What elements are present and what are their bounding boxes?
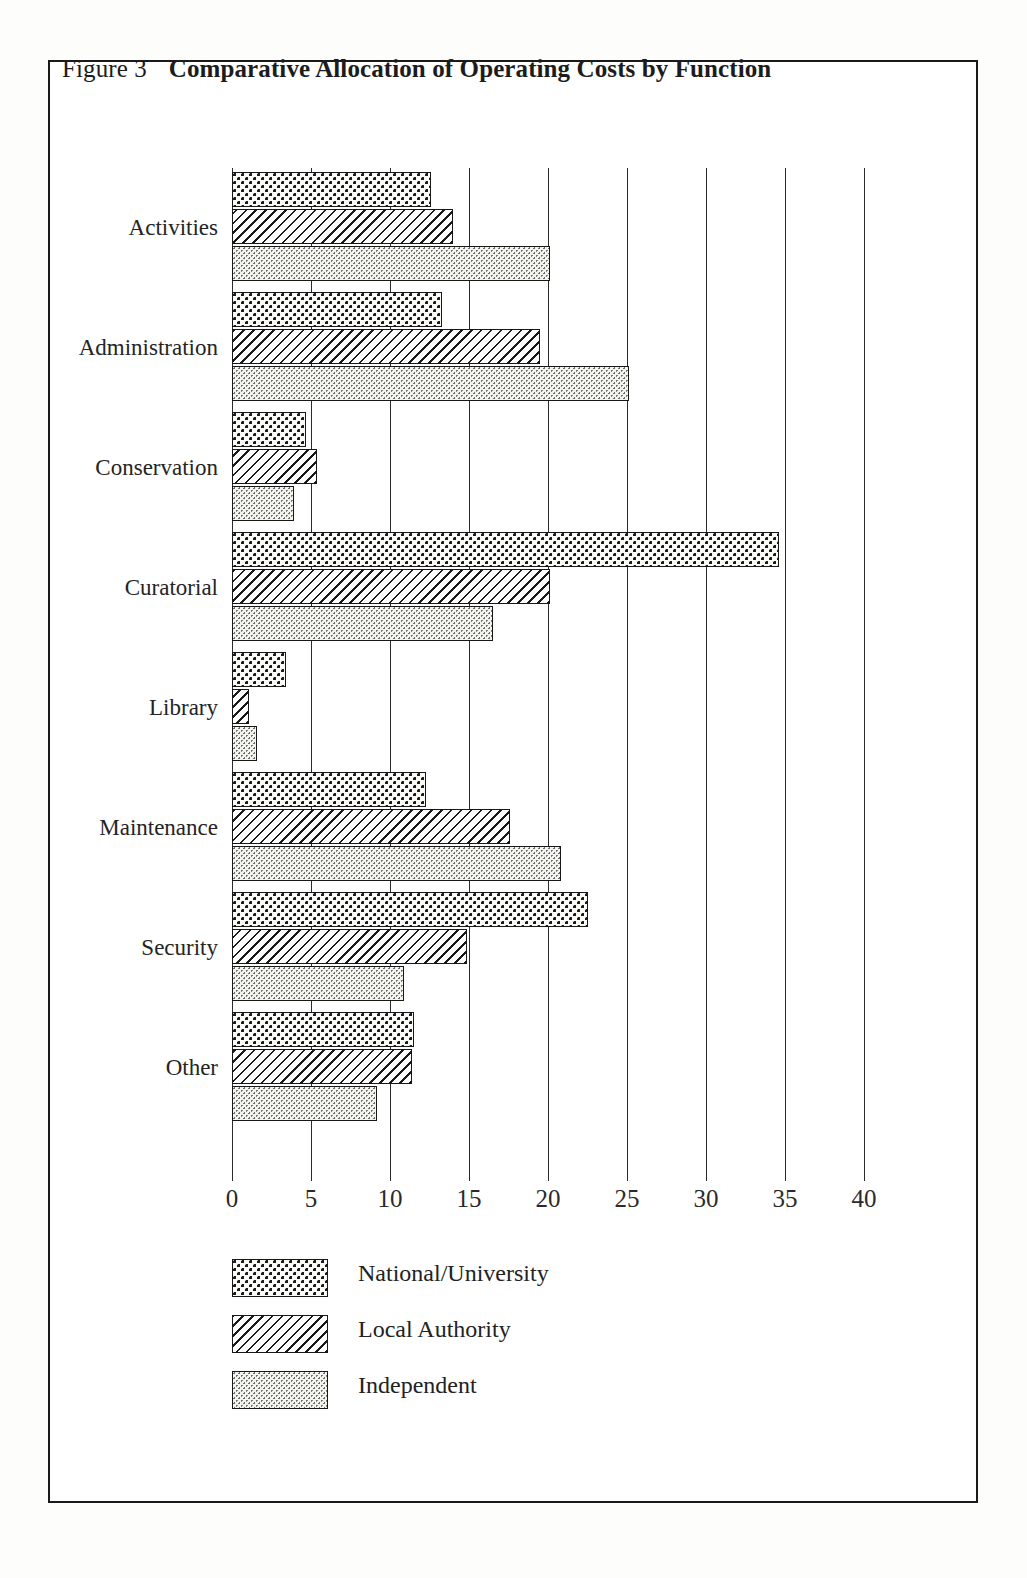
gridline: [864, 168, 865, 1168]
x-tick-mark: [232, 1168, 233, 1181]
category-label: Administration: [79, 335, 218, 361]
category-label: Maintenance: [99, 815, 218, 841]
bar: [232, 726, 257, 761]
bar: [232, 652, 286, 687]
bar: [232, 1049, 412, 1084]
legend-swatch: [232, 1259, 328, 1297]
category-label: Security: [141, 935, 218, 961]
bar: [232, 366, 629, 401]
legend-item: Independent: [232, 1367, 662, 1423]
bar: [232, 606, 493, 641]
x-axis: 0510152025303540: [232, 1168, 864, 1228]
x-tick-label: 40: [852, 1185, 877, 1213]
category-group: Other: [232, 1008, 864, 1128]
bar: [232, 172, 431, 207]
bar: [232, 292, 442, 327]
x-tick-label: 15: [457, 1185, 482, 1213]
bar: [232, 846, 561, 881]
x-tick-label: 30: [694, 1185, 719, 1213]
chart-plot-area: ActivitiesAdministrationConservationCura…: [232, 168, 864, 1168]
bar: [232, 329, 540, 364]
x-tick-mark: [706, 1168, 707, 1181]
bar: [232, 449, 317, 484]
legend-item: National/University: [232, 1255, 662, 1311]
legend-swatch: [232, 1371, 328, 1409]
bar: [232, 1086, 377, 1121]
bar: [232, 892, 588, 927]
x-tick-mark: [390, 1168, 391, 1181]
bar: [232, 486, 294, 521]
category-group: Conservation: [232, 408, 864, 528]
legend-label: National/University: [358, 1260, 549, 1287]
legend-label: Independent: [358, 1372, 477, 1399]
bar: [232, 209, 453, 244]
category-group: Activities: [232, 168, 864, 288]
chart-legend: National/UniversityLocal AuthorityIndepe…: [232, 1255, 662, 1423]
bar: [232, 246, 550, 281]
x-tick-mark: [864, 1168, 865, 1181]
category-group: Curatorial: [232, 528, 864, 648]
category-group: Maintenance: [232, 768, 864, 888]
category-group: Security: [232, 888, 864, 1008]
x-tick-mark: [469, 1168, 470, 1181]
legend-swatch: [232, 1315, 328, 1353]
bar: [232, 966, 404, 1001]
x-tick-label: 5: [305, 1185, 318, 1213]
x-tick-mark: [627, 1168, 628, 1181]
x-tick-label: 35: [773, 1185, 798, 1213]
bar: [232, 569, 550, 604]
legend-item: Local Authority: [232, 1311, 662, 1367]
x-tick-label: 20: [536, 1185, 561, 1213]
bar: [232, 772, 426, 807]
category-label: Curatorial: [125, 575, 218, 601]
x-tick-mark: [785, 1168, 786, 1181]
bar: [232, 689, 249, 724]
bar: [232, 412, 306, 447]
figure-page: Figure 3Comparative Allocation of Operat…: [0, 0, 1027, 1578]
category-label: Conservation: [95, 455, 218, 481]
bar: [232, 809, 510, 844]
bar: [232, 929, 467, 964]
x-tick-label: 0: [226, 1185, 239, 1213]
category-label: Activities: [129, 215, 218, 241]
category-group: Administration: [232, 288, 864, 408]
figure-number: Figure 3: [62, 55, 147, 82]
category-label: Library: [149, 695, 218, 721]
x-tick-mark: [548, 1168, 549, 1181]
bar: [232, 1012, 414, 1047]
bar: [232, 532, 779, 567]
category-group: Library: [232, 648, 864, 768]
figure-title: Figure 3Comparative Allocation of Operat…: [62, 55, 771, 83]
x-tick-mark: [311, 1168, 312, 1181]
x-tick-label: 25: [615, 1185, 640, 1213]
category-label: Other: [166, 1055, 218, 1081]
x-tick-label: 10: [378, 1185, 403, 1213]
legend-label: Local Authority: [358, 1316, 511, 1343]
figure-caption: Comparative Allocation of Operating Cost…: [169, 55, 772, 82]
